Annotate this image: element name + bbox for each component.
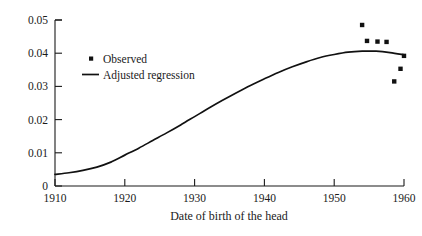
observed-point (375, 39, 379, 43)
x-axis-title: Date of birth of the head (170, 209, 288, 223)
observed-point (402, 54, 406, 58)
x-tick-marks (55, 179, 334, 186)
x-tick-label-1930: 1930 (183, 192, 206, 204)
chart-figure: 0 0.01 0.02 0.03 0.04 0.05 1910 1920 193… (0, 0, 422, 236)
y-tick-marks (55, 20, 62, 186)
y-tick-labels: 0 0.01 0.02 0.03 0.04 0.05 (28, 14, 48, 192)
y-tick-label-5: 0.05 (28, 14, 48, 26)
x-tick-label-1910: 1910 (44, 192, 67, 204)
chart-canvas: 0 0.01 0.02 0.03 0.04 0.05 1910 1920 193… (0, 0, 422, 236)
x-tick-label-1920: 1920 (113, 192, 136, 204)
y-tick-label-4: 0.04 (28, 47, 48, 59)
observed-point (392, 79, 396, 83)
y-tick-label-0: 0 (42, 180, 48, 192)
y-tick-label-2: 0.02 (28, 114, 48, 126)
observed-point (365, 39, 369, 43)
x-tick-labels: 1910 1920 1930 1940 1950 1960 (44, 192, 416, 204)
y-tick-label-1: 0.01 (28, 147, 48, 159)
observed-point (384, 40, 388, 44)
x-tick-label-1960: 1960 (393, 192, 416, 204)
observed-point (360, 23, 364, 27)
legend-label-adjusted-regression: Adjusted regression (103, 69, 195, 82)
legend-observed-marker-icon (89, 57, 93, 61)
axes-group (55, 20, 404, 186)
x-tick-label-1940: 1940 (253, 192, 276, 204)
observed-point (398, 67, 402, 71)
chart-legend: Observed Adjusted regression (82, 53, 195, 82)
legend-label-observed: Observed (103, 53, 147, 65)
x-tick-label-1950: 1950 (323, 192, 346, 204)
y-tick-label-3: 0.03 (28, 80, 48, 92)
